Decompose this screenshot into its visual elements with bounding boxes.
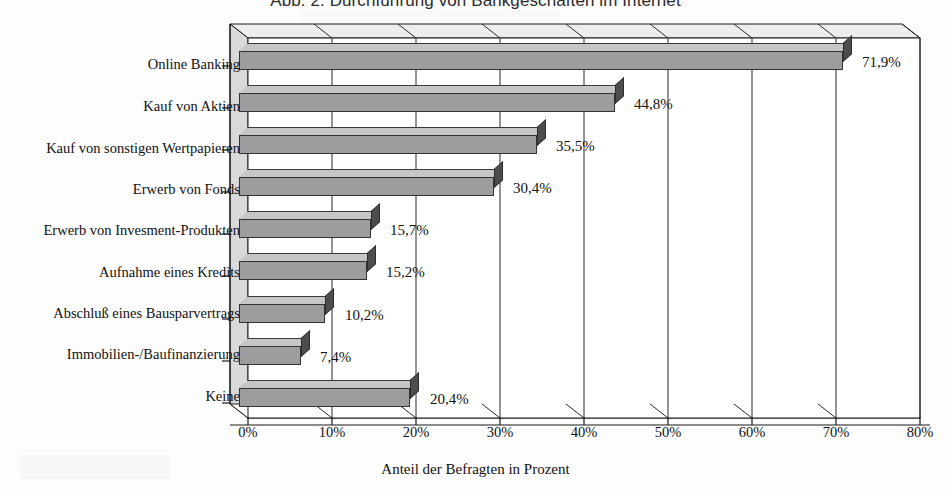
bar-top-face [239,253,376,261]
category-label: Online Banking [148,56,240,72]
xtick-label: 70% [806,424,866,441]
category-label: Erwerb von Fonds [133,181,240,197]
value-label: 15,7% [390,222,429,238]
bar-kauf-von-sonstigen-wertpapieren [239,135,537,154]
xtick-label: 40% [554,424,614,441]
bar-keine [239,388,410,407]
bar-top-face [239,338,310,346]
xtick-label: 60% [722,424,782,441]
bar-face [239,51,843,70]
bar-top-face [239,380,419,388]
value-label: 30,4% [513,180,552,196]
plot-area [0,0,951,489]
value-label: 7,4% [320,349,351,365]
bar-face [239,135,537,154]
bar-aufnahme-eines-kredits [239,261,367,280]
bar-top-face [239,43,852,51]
xtick-label: 80% [890,424,950,441]
value-label: 44,8% [634,96,673,112]
xaxis-title: Anteil der Befragten in Prozent [0,461,951,478]
bar-face [239,304,325,323]
category-label: Kauf von sonstigen Wertpapieren [46,140,240,156]
chart-page: Abb. 2: Durchführung von Bankgeschäften … [0,0,951,489]
value-label: 15,2% [386,264,425,280]
category-label: Keine [205,388,240,404]
xtick-label: 10% [302,424,362,441]
xtick-label: 30% [470,424,530,441]
category-label: Erwerb von Invesment-Produkten [43,222,240,238]
value-label: 35,5% [556,138,595,154]
category-label: Kauf von Aktien [143,98,240,114]
value-label: 10,2% [345,307,384,323]
bar-erwerb-von-invesment-produkten [239,219,371,238]
bar-top-face [239,169,503,177]
category-label: Immobilien-/Baufinanzierung [67,346,240,362]
bar-top-face [239,127,546,135]
bar-face [239,346,301,365]
bar-face [239,93,615,112]
bar-face [239,177,494,196]
category-label: Aufnahme eines Kredits [99,264,240,280]
bar-top-face [239,296,334,304]
bar-kauf-von-aktien [239,93,615,112]
bar-face [239,261,367,280]
value-label: 71,9% [862,54,901,70]
xtick-label: 50% [638,424,698,441]
bar-top-face [239,85,624,93]
value-label: 20,4% [430,391,469,407]
bar-abschluss-eines-bausparvertrags [239,304,325,323]
bar-face [239,388,410,407]
bar-face [239,219,371,238]
bar-immobilien-baufinanzierung [239,346,301,365]
bar-online-banking [239,51,843,70]
xtick-label: 20% [386,424,446,441]
bar-top-face [239,211,380,219]
xtick-label: 0% [218,424,278,441]
category-label: Abschluß eines Bausparvertrags [53,305,240,321]
bar-erwerb-von-fonds [239,177,494,196]
